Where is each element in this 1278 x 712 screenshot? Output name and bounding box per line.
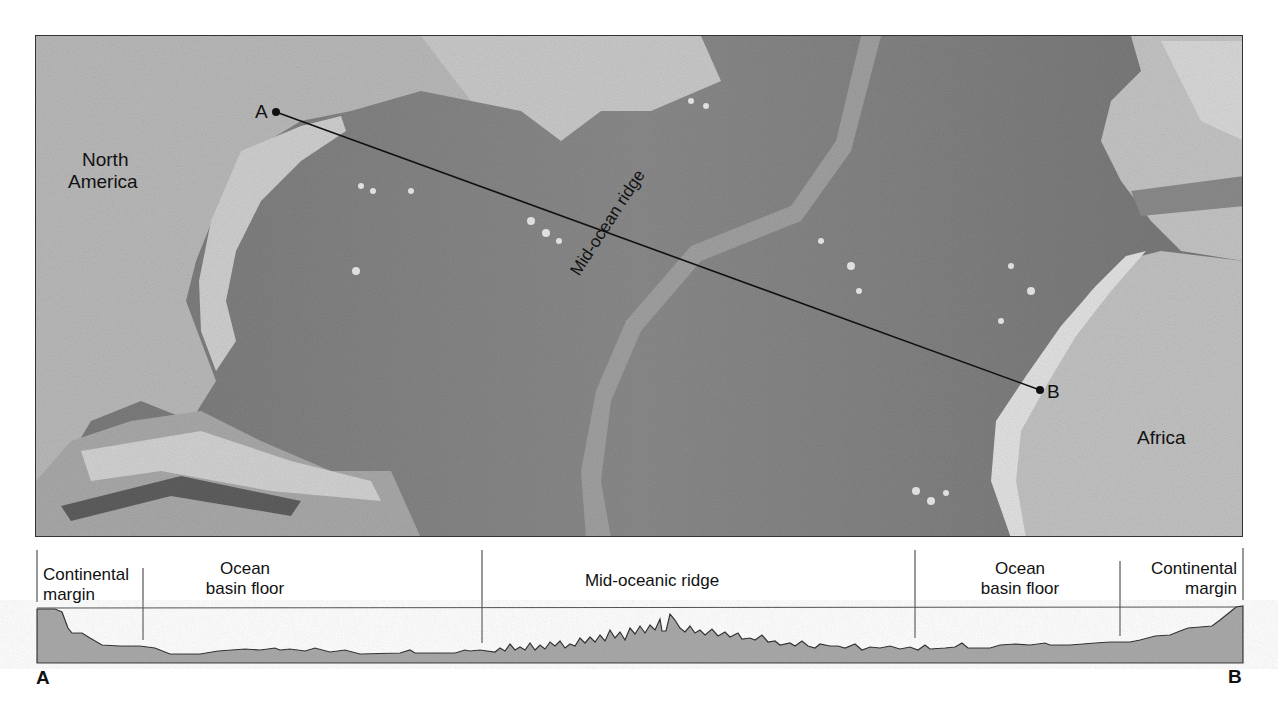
segment-label-line1: Continental: [43, 565, 129, 585]
segment-label-line2: margin: [1110, 579, 1237, 599]
atlantic-relief-map: North America Africa Mid-ocean ridge A B: [35, 35, 1243, 537]
segment-label-line1: Continental: [1110, 559, 1237, 579]
segment-continental-margin-left: Continental margin: [43, 565, 129, 605]
label-point-b: B: [1047, 381, 1060, 403]
label-point-a: A: [255, 101, 268, 123]
sea-level-line: [37, 607, 1243, 608]
segment-label-line1: Mid-oceanic ridge: [552, 571, 752, 591]
label-north-america-line1: North: [68, 149, 138, 171]
segment-ocean-basin-floor-right: Ocean basin floor: [960, 559, 1080, 599]
segment-label-line1: Ocean: [190, 559, 300, 579]
point-a-marker: [272, 108, 280, 116]
label-north-america: North America: [68, 149, 138, 193]
seafloor-profile: [37, 606, 1243, 663]
profile-end-label-a: A: [36, 667, 50, 689]
segment-label-line2: margin: [43, 585, 129, 605]
segment-label-line1: Ocean: [960, 559, 1080, 579]
segment-label-line2: basin floor: [190, 579, 300, 599]
relief-shading: [36, 36, 1243, 537]
label-africa: Africa: [1137, 427, 1186, 449]
segment-mid-oceanic-ridge: Mid-oceanic ridge: [552, 571, 752, 591]
segment-continental-margin-right: Continental margin: [1110, 559, 1237, 599]
segment-label-line2: basin floor: [960, 579, 1080, 599]
profile-end-label-b: B: [1228, 666, 1242, 688]
label-north-america-line2: America: [68, 171, 138, 193]
point-b-marker: [1036, 386, 1044, 394]
segment-ocean-basin-floor-left: Ocean basin floor: [190, 559, 300, 599]
bathymetric-profile: Continental margin Ocean basin floor Mid…: [0, 540, 1278, 712]
